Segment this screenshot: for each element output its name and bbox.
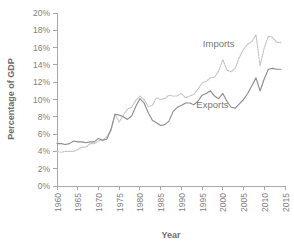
y-axis-ticks: 0%2%4%6%8%10%12%14%16%18%20% [33, 8, 57, 191]
x-tick-label: 2015 [281, 193, 291, 212]
y-tick-label: 10% [33, 95, 50, 105]
x-tick-label: 2010 [260, 193, 270, 212]
x-tick-label: 1960 [53, 193, 63, 212]
series-line-exports [57, 68, 281, 144]
x-tick-label: 1975 [115, 193, 125, 212]
y-tick-label: 6% [38, 129, 51, 139]
y-tick-label: 4% [38, 146, 51, 156]
series-annotation-imports: Imports [203, 38, 235, 49]
x-tick-label: 1980 [135, 193, 145, 212]
y-tick-label: 16% [33, 43, 50, 53]
x-tick-label: 2005 [239, 193, 249, 212]
x-tick-label: 2000 [218, 193, 228, 212]
x-axis-ticks: 1960196519701975198019851990199520002005… [53, 186, 291, 212]
y-tick-label: 12% [33, 77, 50, 87]
x-tick-label: 1995 [198, 193, 208, 212]
y-tick-label: 2% [38, 164, 51, 174]
x-tick-label: 1990 [177, 193, 187, 212]
line-chart: 0%2%4%6%8%10%12%14%16%18%20% 19601965197… [0, 0, 294, 244]
y-tick-label: 8% [38, 112, 51, 122]
y-tick-label: 0% [38, 181, 51, 191]
chart-container: 0%2%4%6%8%10%12%14%16%18%20% 19601965197… [0, 0, 294, 244]
x-tick-label: 1965 [73, 193, 83, 212]
x-axis-title: Year [161, 230, 181, 240]
y-tick-label: 14% [33, 60, 50, 70]
x-tick-label: 1985 [156, 193, 166, 212]
series-annotation-exports: Exports [196, 99, 228, 110]
y-axis-title: Percentage of GDP [6, 58, 16, 140]
y-tick-label: 18% [33, 25, 50, 35]
y-tick-label: 20% [33, 8, 50, 18]
x-tick-label: 1970 [94, 193, 104, 212]
